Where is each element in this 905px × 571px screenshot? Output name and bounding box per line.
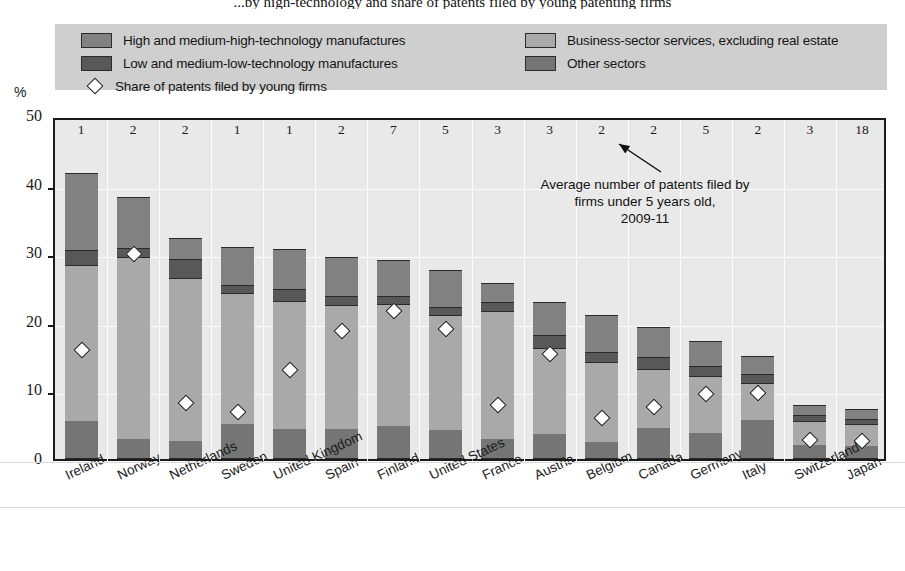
patent-count-label: 3: [524, 122, 576, 138]
bar-united-kingdom[interactable]: [273, 250, 306, 459]
y-axis-tick: [48, 256, 55, 258]
young-firms-marker: [74, 342, 89, 357]
bar-netherlands[interactable]: [169, 239, 202, 459]
bar-segment: [273, 289, 306, 301]
bar-ireland[interactable]: [65, 174, 98, 459]
bar-segment: [481, 283, 514, 302]
swatch-business-services-icon: [525, 33, 556, 48]
column-separator: [732, 120, 733, 463]
legend-label: Other sectors: [567, 56, 645, 71]
bar-segment: [169, 238, 202, 259]
patent-count-label: 5: [419, 122, 471, 138]
bar-belgium[interactable]: [585, 316, 618, 459]
bar-segment: [585, 362, 618, 442]
young-firms-marker: [438, 321, 453, 336]
bar-segment: [65, 421, 98, 458]
patent-count-label: 3: [784, 122, 836, 138]
bar-finland[interactable]: [377, 261, 410, 459]
legend-item-low-tech: Low and medium-low-technology manufactur…: [81, 53, 405, 74]
young-firms-marker: [334, 323, 349, 338]
column-separator: [628, 120, 629, 463]
patent-count-label: 1: [55, 122, 107, 138]
bar-segment: [377, 260, 410, 296]
bar-segment: [533, 302, 566, 334]
page-title: ...by high-technology and share of paten…: [0, 0, 905, 9]
bar-segment: [637, 428, 670, 458]
annotation-line-1: Average number of patents filed by: [505, 176, 785, 193]
bar-segment: [741, 374, 774, 383]
patent-count-label: 18: [836, 122, 888, 138]
patent-count-label: 1: [263, 122, 315, 138]
plot-area: 12211275332252318: [53, 118, 886, 461]
bar-segment: [65, 250, 98, 264]
bar-canada[interactable]: [637, 328, 670, 459]
bar-segment: [117, 197, 150, 248]
young-firms-marker: [750, 385, 765, 400]
bar-segment: [221, 247, 254, 285]
column-separator: [211, 120, 212, 463]
bar-italy[interactable]: [741, 357, 774, 459]
y-axis-tick-label: 10: [0, 381, 42, 399]
patent-count-label: 7: [367, 122, 419, 138]
patent-count-label: 2: [159, 122, 211, 138]
bar-segment: [585, 315, 618, 353]
bar-segment: [221, 285, 254, 293]
young-firms-marker: [490, 397, 505, 412]
bar-segment: [169, 278, 202, 441]
bar-segment: [169, 259, 202, 278]
legend-label: Business-sector services, excluding real…: [567, 33, 838, 48]
young-firms-marker: [802, 432, 817, 447]
column-separator: [524, 120, 525, 463]
legend-item-other-sectors: Other sectors: [525, 53, 838, 74]
bar-segment: [585, 352, 618, 362]
y-axis-tick-label: 20: [0, 313, 42, 331]
bar-segment: [377, 426, 410, 458]
column-separator: [159, 120, 160, 463]
label-baseline: [0, 507, 905, 508]
column-separator: [367, 120, 368, 463]
bar-segment: [481, 311, 514, 439]
young-firms-marker: [698, 386, 713, 401]
legend-label: High and medium-high-technology manufact…: [123, 33, 405, 48]
bar-norway[interactable]: [117, 198, 150, 459]
bar-segment: [637, 357, 670, 369]
swatch-high-tech-icon: [81, 33, 112, 48]
column-separator: [107, 120, 108, 463]
bar-segment: [845, 409, 878, 419]
bar-segment: [793, 415, 826, 421]
legend-item-young-firms: Share of patents filed by young firms: [81, 76, 405, 97]
bar-segment: [429, 270, 462, 307]
top-value-strip: 12211275332252318: [55, 120, 884, 144]
chart-annotation: Average number of patents filed by firms…: [505, 176, 785, 227]
column-separator: [419, 120, 420, 463]
y-axis-tick-label: 40: [0, 176, 42, 194]
swatch-other-sectors-icon: [525, 56, 556, 71]
patent-count-label: 2: [107, 122, 159, 138]
diamond-marker-icon: [87, 78, 104, 95]
legend-item-business-services: Business-sector services, excluding real…: [525, 30, 838, 51]
patent-count-label: 2: [315, 122, 367, 138]
bar-segment: [429, 307, 462, 315]
bar-segment: [117, 257, 150, 439]
column-separator: [784, 120, 785, 463]
bar-segment: [741, 420, 774, 458]
young-firms-marker: [230, 404, 245, 419]
bar-segment: [845, 419, 878, 424]
bar-france[interactable]: [481, 284, 514, 459]
bar-austria[interactable]: [533, 303, 566, 459]
legend-label: Share of patents filed by young firms: [115, 79, 327, 94]
y-axis-tick-label: 30: [0, 244, 42, 262]
patent-count-label: 1: [211, 122, 263, 138]
y-axis-tick-label: 50: [0, 107, 42, 125]
legend-column-left: High and medium-high-technology manufact…: [81, 30, 405, 99]
bar-segment: [325, 296, 358, 305]
swatch-low-tech-icon: [81, 56, 112, 71]
bar-spain[interactable]: [325, 258, 358, 459]
patent-count-label: 2: [576, 122, 628, 138]
bar-segment: [325, 257, 358, 296]
patent-count-label: 2: [628, 122, 680, 138]
bar-united-states[interactable]: [429, 271, 462, 459]
y-axis-tick: [48, 393, 55, 395]
patent-count-label: 2: [732, 122, 784, 138]
bar-sweden[interactable]: [221, 248, 254, 459]
